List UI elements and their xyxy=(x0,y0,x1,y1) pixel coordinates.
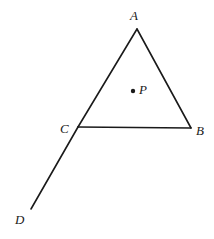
segment-CA xyxy=(78,29,137,127)
segment-BC xyxy=(78,127,191,128)
point-label-P: P xyxy=(139,83,147,96)
geometry-figure-svg xyxy=(0,0,214,239)
vertex-label-D: D xyxy=(15,213,24,226)
segment-AB xyxy=(137,29,191,128)
segment-CD xyxy=(31,127,78,209)
vertex-label-A: A xyxy=(130,9,138,22)
geometry-figure-canvas: A B C D P xyxy=(0,0,214,239)
vertex-label-C: C xyxy=(60,122,69,135)
point-P-dot xyxy=(131,89,135,93)
vertex-label-B: B xyxy=(196,124,204,137)
